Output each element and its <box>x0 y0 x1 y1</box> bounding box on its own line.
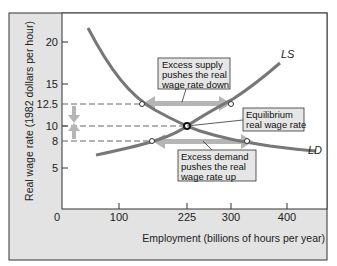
x-axis-label: Employment (billions of hours per year) <box>142 232 325 244</box>
y-axis-label: Real wage rate (1982 dollars per hour) <box>23 21 35 201</box>
ls-label: LS <box>281 48 295 60</box>
equilibrium-line2: real wage rate <box>246 119 306 130</box>
excess-supply-line3: wage rate down <box>161 79 229 90</box>
x-tick-label: 0 <box>54 211 60 223</box>
x-tick-label: 225 <box>178 211 196 223</box>
y-tick-label: 12.5 <box>37 98 58 110</box>
y-tick-label: 20 <box>46 36 58 48</box>
y-tick-label: 15 <box>46 78 58 90</box>
x-tick-label: 300 <box>222 211 240 223</box>
y-tick-label: 5 <box>52 162 58 174</box>
x-tick-label: 100 <box>110 211 128 223</box>
ld-label: LD <box>308 144 322 156</box>
y-tick-label: 8 <box>52 135 58 147</box>
y-tick-label: 10 <box>46 120 58 132</box>
chart: 20 15 12.5 10 8 5 Real wage rate (1982 d… <box>0 0 337 266</box>
excess-demand-line3: wage rate up <box>180 171 236 182</box>
x-tick-label: 400 <box>278 211 296 223</box>
